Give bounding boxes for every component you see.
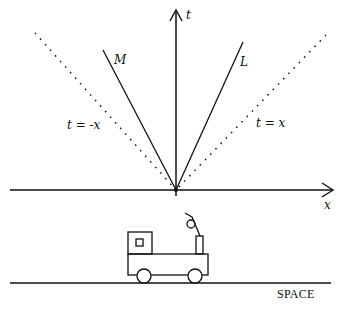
light-line-right-label: t = x <box>256 116 286 130</box>
train-wheel-rear <box>188 269 202 283</box>
origin-point <box>174 188 178 192</box>
train-wheel-front <box>137 269 151 283</box>
worldline-L-label: L <box>239 55 248 69</box>
worldline-M-label: M <box>113 53 127 67</box>
light-line-left <box>35 33 176 190</box>
train-chimney <box>196 236 203 254</box>
worldline-M <box>103 50 176 190</box>
t-axis-label: t <box>186 8 191 22</box>
space-label: SPACE <box>277 287 315 301</box>
train-window <box>136 239 143 246</box>
light-line-left-label: t = -x <box>67 118 101 132</box>
spacetime-diagram: x t t = -x t = x M L SPACE <box>0 0 341 309</box>
light-line-right <box>176 35 326 190</box>
x-axis <box>10 183 333 197</box>
worldline-L <box>176 42 243 190</box>
train-icon <box>128 213 208 283</box>
t-axis <box>170 10 182 196</box>
x-axis-label: x <box>324 198 331 212</box>
train-cab <box>128 232 152 254</box>
